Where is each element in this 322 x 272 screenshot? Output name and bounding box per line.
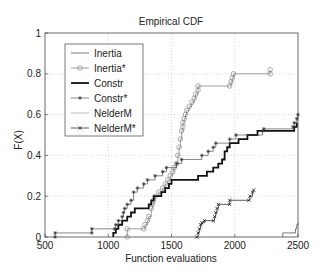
- x-tick-label: 2500: [287, 240, 310, 251]
- legend-label: Inertia*: [94, 63, 126, 74]
- x-axis-label: Function evaluations: [125, 253, 217, 264]
- y-axis-label: F(X): [13, 130, 24, 149]
- legend-label: NelderM: [94, 108, 132, 119]
- y-tick-label: 0.2: [27, 191, 41, 202]
- y-tick-label: 0.4: [27, 150, 41, 161]
- x-tick-label: 1000: [97, 240, 120, 251]
- y-tick-label: 1: [35, 28, 41, 39]
- y-tick-label: 0.6: [27, 109, 41, 120]
- legend-label: Constr: [94, 78, 124, 89]
- series-inertia-star: [125, 67, 273, 239]
- legend: InertiaInertia*ConstrConstr*NelderMNelde…: [65, 44, 143, 136]
- x-tick-label: 2000: [224, 240, 247, 251]
- y-tick-label: 0.8: [27, 68, 41, 79]
- figure: 500100015002000250000.20.40.60.81 Empiri…: [0, 0, 322, 272]
- legend-label: Inertia: [94, 48, 122, 59]
- legend-label: NelderM*: [94, 123, 136, 134]
- series-inertia: [283, 223, 298, 237]
- x-tick-label: 1500: [160, 240, 183, 251]
- chart-title: Empirical CDF: [139, 16, 203, 27]
- y-tick-label: 0: [35, 232, 41, 243]
- cdf-chart: 500100015002000250000.20.40.60.81 Empiri…: [0, 0, 322, 272]
- legend-label: Constr*: [94, 93, 127, 104]
